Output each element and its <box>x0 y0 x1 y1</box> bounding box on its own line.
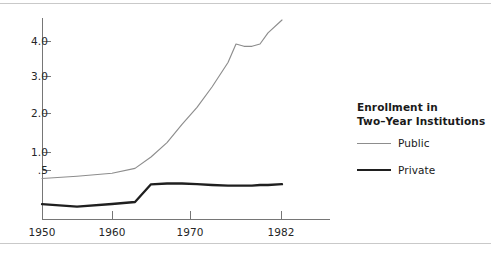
y-tick-label-1: 1.0 <box>12 146 48 158</box>
y-tick-label-3: 3.0 <box>12 70 48 82</box>
y-tick-label-point5: .5 <box>12 164 48 176</box>
y-tick-label-2: 2.0 <box>12 107 48 119</box>
legend-item-public[interactable]: Public <box>357 132 487 153</box>
legend-title-line-1: Enrollment in <box>357 101 487 115</box>
chart-figure: 4.0 3.0 2.0 1.0 .5 1950 1960 1970 1982 E… <box>0 0 491 253</box>
legend-title-line-2: Two–Year Institutions <box>357 115 487 129</box>
legend-label-private: Private <box>391 164 435 176</box>
legend-item-private[interactable]: Private <box>357 159 487 180</box>
legend-label-public: Public <box>391 137 430 149</box>
x-axis-ticks <box>113 211 282 219</box>
x-tick-label-1970: 1970 <box>165 226 215 238</box>
legend-swatch-private-line-icon <box>357 165 391 175</box>
chart-legend: Enrollment in Two–Year Institutions Publ… <box>357 101 487 180</box>
series-line-private <box>42 184 282 207</box>
y-tick-label-4: 4.0 <box>12 35 48 47</box>
series-line-public <box>42 20 282 179</box>
legend-swatch-public-line-icon <box>357 138 391 148</box>
x-tick-label-1960: 1960 <box>87 226 137 238</box>
x-tick-label-1982: 1982 <box>256 226 306 238</box>
x-tick-label-1950: 1950 <box>17 226 67 238</box>
